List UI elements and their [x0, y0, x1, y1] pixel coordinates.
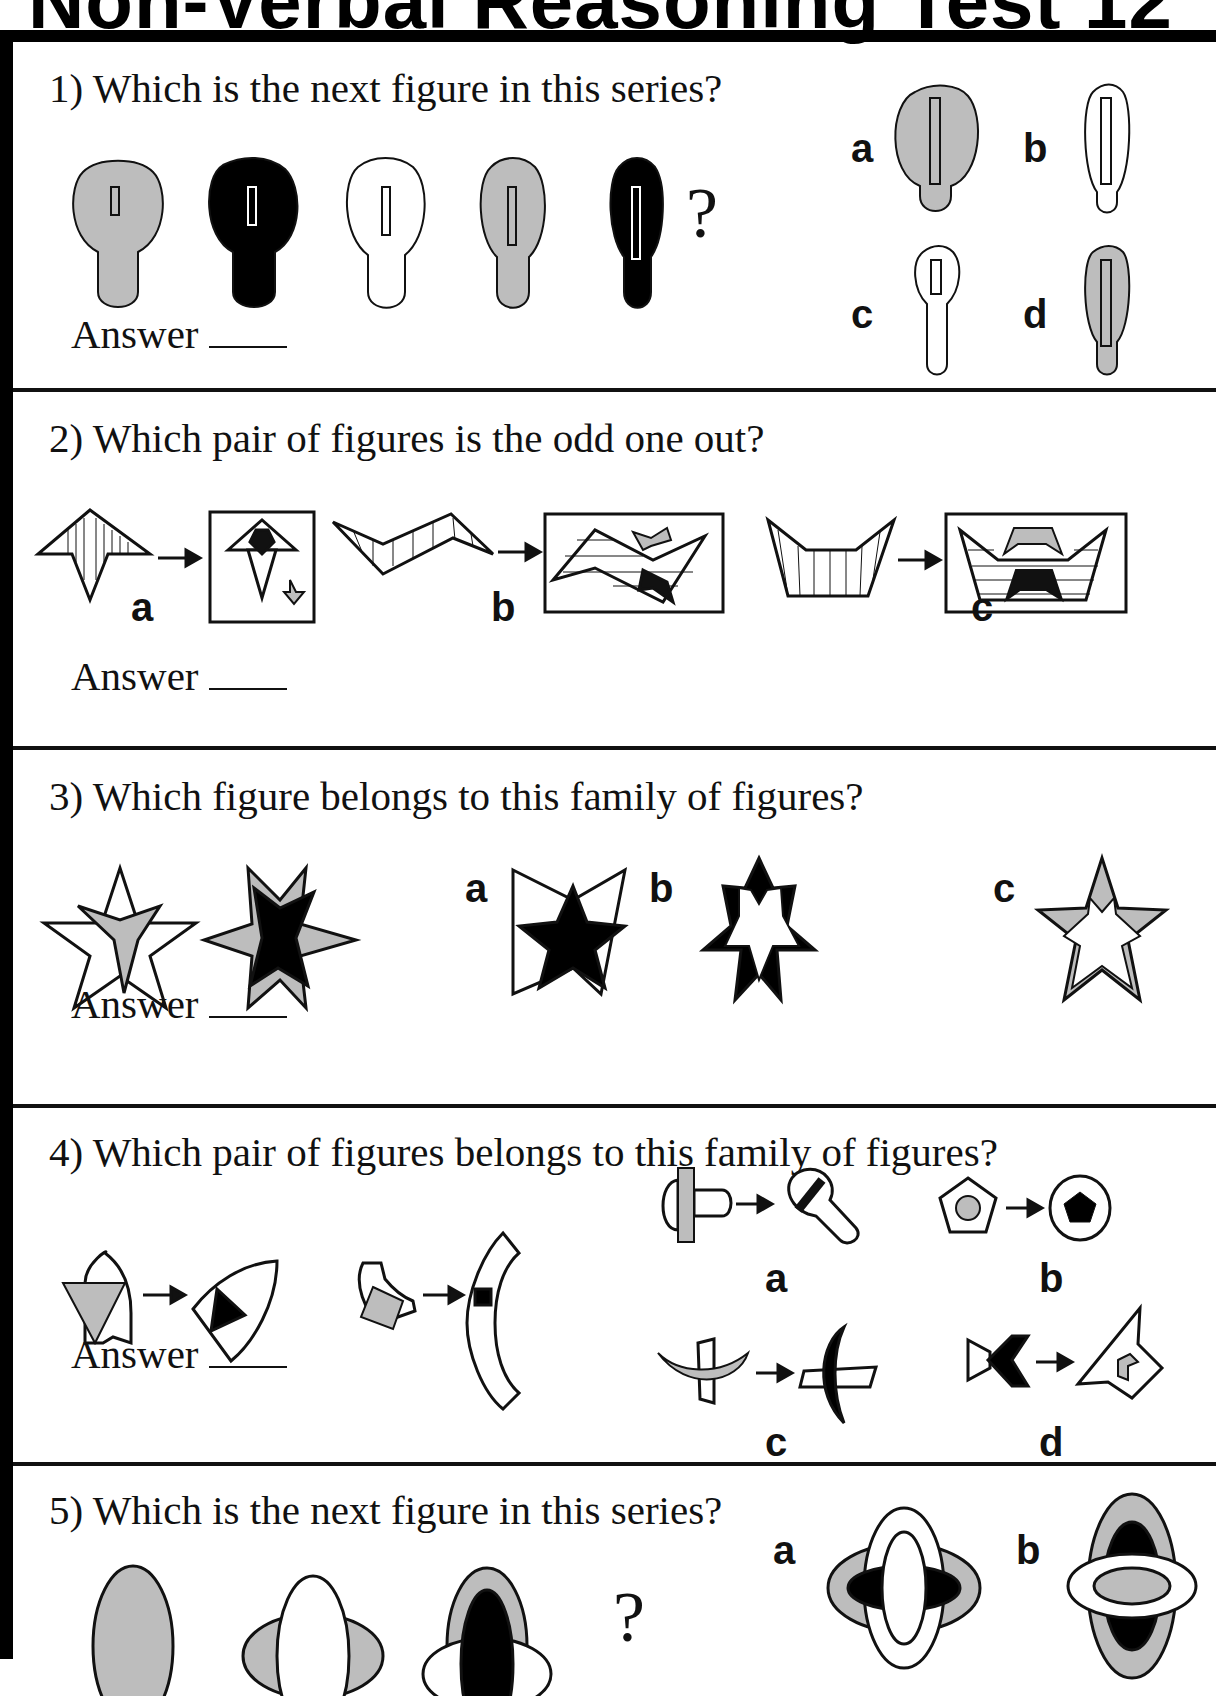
question-text: 1) Which is the next figure in this seri… [49, 64, 722, 112]
option-label-a[interactable]: a [773, 1528, 795, 1573]
question-2: 2) Which pair of figures is the odd one … [13, 392, 1216, 748]
option-label-a[interactable]: a [131, 585, 153, 630]
option-a-figure[interactable] [828, 1508, 988, 1628]
option-label-b[interactable]: b [491, 585, 515, 630]
answer-label: Answer [71, 981, 199, 1027]
question-text: 5) Which is the next figure in this seri… [49, 1486, 722, 1534]
option-a-figure[interactable] [513, 870, 633, 1000]
question-mark: ? [686, 172, 718, 255]
option-c-figure[interactable] [913, 246, 963, 376]
option-label-c[interactable]: c [765, 1420, 787, 1465]
option-label-b[interactable]: b [649, 866, 673, 911]
option-label-b[interactable]: b [1023, 126, 1047, 171]
answer-field[interactable]: Answer [71, 980, 287, 1028]
option-label-c[interactable]: c [993, 866, 1015, 911]
option-label-b[interactable]: b [1039, 1256, 1063, 1301]
answer-blank[interactable] [209, 986, 287, 1018]
option-a-figure[interactable] [893, 84, 983, 214]
option-b-pair[interactable] [938, 1178, 1148, 1258]
option-c-pair[interactable] [658, 1333, 898, 1433]
option-label-c[interactable]: c [971, 585, 993, 630]
option-b-figure[interactable] [703, 858, 823, 1008]
option-label-a[interactable]: a [851, 126, 873, 171]
option-b-figure[interactable] [1083, 84, 1133, 214]
option-b-figure[interactable] [1068, 1486, 1208, 1626]
answer-blank[interactable] [209, 316, 287, 348]
option-d-pair[interactable] [968, 1308, 1198, 1418]
series-figures [93, 1566, 653, 1696]
option-a-pair[interactable] [658, 1168, 888, 1258]
option-label-c[interactable]: c [851, 292, 873, 337]
option-label-b[interactable]: b [1016, 1528, 1040, 1573]
question-5: 5) Which is the next figure in this seri… [13, 1466, 1216, 1659]
option-b-pair[interactable] [333, 510, 743, 625]
question-1: 1) Which is the next figure in this seri… [13, 42, 1216, 390]
question-3: 3) Which figure belongs to this family o… [13, 750, 1216, 1106]
series-figures [63, 157, 763, 307]
answer-label: Answer [71, 311, 199, 357]
option-label-a[interactable]: a [465, 866, 487, 911]
option-label-d[interactable]: d [1039, 1420, 1063, 1465]
option-c-figure[interactable] [1038, 858, 1168, 1008]
option-d-figure[interactable] [1083, 246, 1133, 376]
frame-left-border [0, 30, 13, 1659]
option-label-d[interactable]: d [1023, 292, 1047, 337]
answer-label: Answer [71, 1331, 199, 1377]
question-text: 2) Which pair of figures is the odd one … [49, 414, 764, 462]
option-label-a[interactable]: a [765, 1256, 787, 1301]
question-mark: ? [613, 1576, 645, 1659]
answer-blank[interactable] [209, 658, 287, 690]
answer-field[interactable]: Answer [71, 652, 287, 700]
answer-label: Answer [71, 653, 199, 699]
answer-field[interactable]: Answer [71, 310, 287, 358]
frame-top-border [0, 30, 1216, 42]
option-a-pair[interactable] [38, 510, 328, 625]
answer-blank[interactable] [209, 1336, 287, 1368]
question-text: 3) Which figure belongs to this family o… [49, 772, 864, 820]
question-4: 4) Which pair of figures belongs to this… [13, 1108, 1216, 1464]
answer-field[interactable]: Answer [71, 1330, 287, 1378]
